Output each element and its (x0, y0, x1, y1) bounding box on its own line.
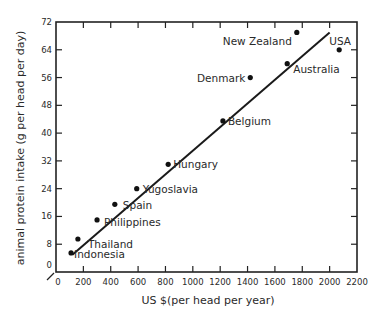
data-point-australia: Australia (285, 61, 340, 75)
y-tick-label: 40 (41, 128, 52, 138)
y-tick-label: 56 (41, 73, 52, 83)
point-label: Spain (123, 199, 152, 211)
point-label: Philippines (104, 216, 161, 228)
point-label: Denmark (197, 72, 246, 84)
point-label: Thailand (87, 238, 133, 250)
data-point-spain: Spain (112, 199, 152, 211)
y-tick-label: 0 (47, 260, 52, 270)
point-marker (294, 30, 299, 35)
point-label: USA (329, 35, 352, 47)
y-tick-label: 24 (41, 184, 52, 194)
x-tick-label: 0 (55, 277, 60, 287)
plot-border (56, 22, 357, 272)
point-label: Australia (293, 63, 339, 75)
x-tick-label: 400 (103, 277, 119, 287)
data-point-usa: USA (329, 35, 352, 53)
x-tick-label: 600 (130, 277, 146, 287)
y-tick-label: 64 (41, 45, 52, 55)
y-tick-label: 72 (41, 17, 52, 27)
axis-ticks (56, 22, 357, 272)
point-marker (68, 250, 73, 255)
point-marker (166, 162, 171, 167)
x-tick-label: 1800 (291, 277, 313, 287)
y-tick-label: 32 (41, 156, 52, 166)
point-label: Yugoslavia (142, 183, 198, 195)
x-tick-label: 1400 (237, 277, 259, 287)
point-label: New Zealand (223, 35, 292, 47)
x-tick-label: 2000 (319, 277, 341, 287)
data-point-yugoslavia: Yugoslavia (134, 183, 198, 195)
point-marker (134, 186, 139, 191)
x-tick-label: 800 (157, 277, 173, 287)
data-points: IndonesiaThailandPhilippinesSpainYugosla… (68, 30, 351, 260)
scatter-chart: 0200400600800100012001400160018002000220… (0, 0, 379, 324)
point-marker (285, 61, 290, 66)
point-marker (94, 217, 99, 222)
point-marker (248, 75, 253, 80)
axis-break-mark (47, 273, 54, 280)
point-marker (337, 47, 342, 52)
x-tick-label: 1000 (182, 277, 204, 287)
data-point-philippines: Philippines (94, 216, 160, 228)
x-tick-label: 1200 (209, 277, 231, 287)
x-tick-label: 1600 (264, 277, 286, 287)
x-tick-label: 2200 (346, 277, 368, 287)
x-axis-title: US $(per head per year) (141, 294, 274, 307)
y-axis-title: animal protein intake (g per head per da… (14, 31, 27, 266)
y-tick-label: 16 (41, 211, 52, 221)
x-tick-label: 200 (75, 277, 91, 287)
data-point-new-zealand: New Zealand (223, 30, 300, 48)
y-tick-label: 48 (41, 100, 52, 110)
y-tick-label: 8 (47, 239, 52, 249)
data-point-belgium: Belgium (220, 115, 271, 127)
data-point-denmark: Denmark (197, 72, 253, 84)
data-point-hungary: Hungary (166, 158, 218, 170)
point-label: Hungary (173, 158, 218, 170)
point-label: Belgium (228, 115, 271, 127)
point-marker (112, 202, 117, 207)
point-marker (75, 236, 80, 241)
point-marker (220, 118, 225, 123)
